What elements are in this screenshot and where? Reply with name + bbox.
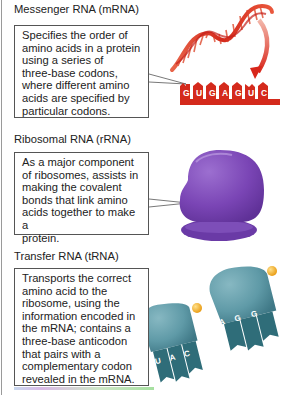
base-label: U (248, 88, 254, 98)
rna-helix-icon (172, 6, 272, 70)
curved-arrow-icon (250, 20, 267, 79)
trna-description-box: Transports the correct amino acid to the… (14, 268, 149, 386)
base-label: G (183, 88, 190, 98)
trna-line: complementary codon (22, 360, 142, 373)
rrna-line: As a major component (22, 156, 142, 169)
rrna-title: Ribosomal RNA (rRNA) (14, 133, 131, 145)
base-label: A (222, 88, 228, 98)
trna-line: revealed in the mRNA. (22, 373, 142, 386)
mrna-base-labels: G U G A G U C (180, 88, 280, 100)
trna-line: the mRNA; contains a (22, 322, 142, 335)
trna-line: ribosome, using the (22, 297, 142, 310)
trna-line: that pairs with a (22, 348, 142, 361)
anticodon-base: G (250, 309, 258, 319)
trna-line: information encoded in (22, 310, 142, 323)
amino-acid-icon (267, 266, 277, 276)
anticodon-base: A (218, 317, 226, 327)
base-label: C (261, 88, 267, 98)
anticodon-base: C (183, 349, 191, 359)
base-label: G (235, 88, 242, 98)
amino-acid-icon (192, 303, 202, 313)
anticodon-base: G (233, 313, 241, 323)
rrna-line: of ribosomes, assists in (22, 169, 142, 182)
anticodon-base: A (169, 353, 177, 363)
trna-line: Transports the correct (22, 272, 142, 285)
rrna-line: making the covalent (22, 181, 142, 194)
rrna-description-box: As a major component of ribosomes, assis… (14, 152, 149, 235)
ribosome-icon (180, 150, 264, 241)
rrna-line: bonds that link amino (22, 194, 142, 207)
bottom-accent-line (14, 387, 154, 390)
trna-line: amino acid to the (22, 285, 142, 298)
trna-title: Transfer RNA (tRNA) (14, 250, 119, 262)
mrna-callout-pointer (149, 74, 186, 84)
anticodon-base: U (154, 356, 162, 366)
base-label: U (196, 88, 202, 98)
base-label: G (209, 88, 216, 98)
rrna-line: acids together to make a (22, 206, 142, 231)
rrna-line: protein. (22, 232, 142, 245)
trna-line: three-base anticodon (22, 335, 142, 348)
